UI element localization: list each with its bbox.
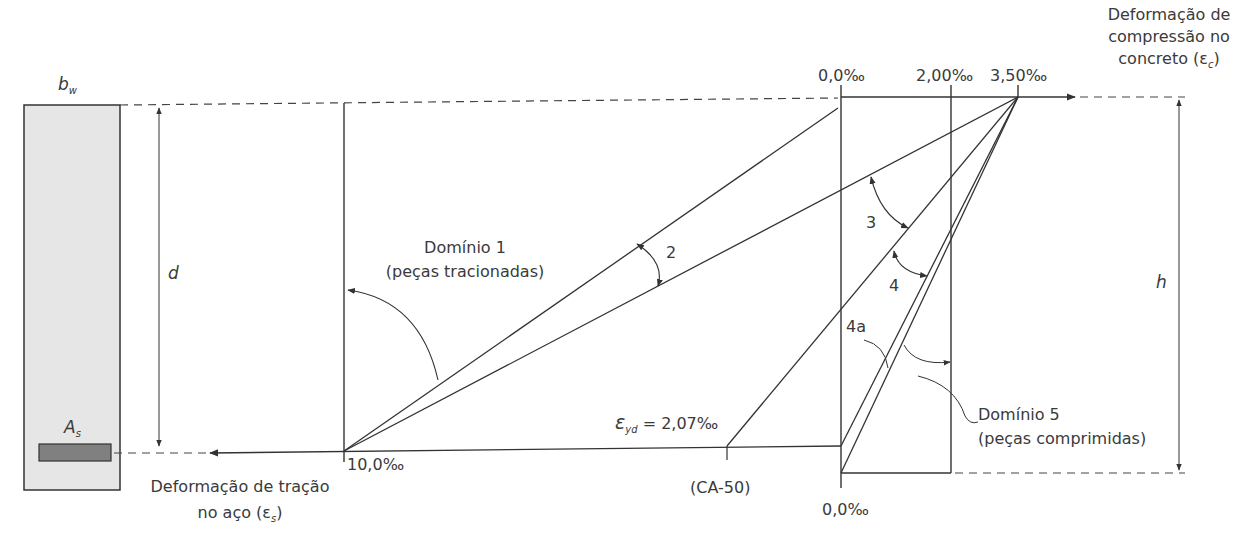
compression-axis-title: Deformação de compressão no concreto (εc… bbox=[1095, 4, 1243, 76]
tension-axis-title: Deformação de tração no aço (εs) bbox=[135, 474, 345, 532]
as-label: As bbox=[64, 417, 81, 440]
tick-top-350: 3,50‰ bbox=[990, 66, 1047, 85]
domain-4a-label: 4a bbox=[846, 317, 866, 336]
tick-steel-10: 10,0‰ bbox=[347, 455, 404, 474]
domain-2-label: 2 bbox=[666, 243, 676, 262]
ca50-label: (CA-50) bbox=[690, 478, 750, 497]
tension-axis bbox=[210, 446, 841, 453]
domain-1-label: Domínio 1 (peças tracionadas) bbox=[360, 236, 570, 284]
steel-bar bbox=[39, 444, 111, 461]
domain-3-label: 3 bbox=[866, 213, 876, 232]
tick-top-zero: 0,0‰ bbox=[818, 66, 865, 85]
strain-domain-diagram bbox=[0, 0, 1243, 553]
domain-5-label: Domínio 5 (peças comprimidas) bbox=[978, 403, 1146, 451]
tick-bottom-zero: 0,0‰ bbox=[822, 500, 869, 519]
d-label: d bbox=[168, 263, 179, 283]
domain-4-label: 4 bbox=[889, 276, 899, 295]
h-label: h bbox=[1156, 272, 1167, 292]
tick-top-200: 2,00‰ bbox=[916, 66, 973, 85]
eyd-label: εyd = 2,07‰ bbox=[615, 411, 718, 436]
bw-label: bw bbox=[58, 74, 77, 97]
